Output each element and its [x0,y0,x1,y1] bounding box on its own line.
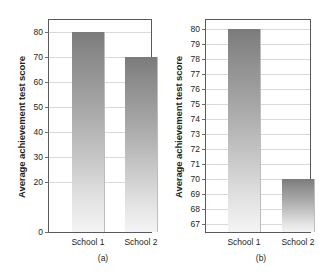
y-axis-tick-label: 73 [191,130,200,139]
x-axis-category-label: School 2 [264,237,319,247]
y-axis-tick [202,149,206,150]
bar-school-1 [228,29,261,232]
y-axis-tick-label: 70 [34,53,43,62]
y-axis-tick [202,29,206,30]
y-axis-tick-label: 20 [34,178,43,187]
y-axis-tick [45,82,49,83]
chart-panel-b: Average achievement test score 676869707… [159,0,319,276]
y-axis-tick-label: 40 [34,128,43,137]
y-axis-title-b: Average achievement test score [173,24,186,230]
y-axis-tick-label: 67 [191,220,200,229]
y-axis-tick [202,119,206,120]
panel-caption-b: (b) [159,253,319,263]
y-axis-tick [202,104,206,105]
bar-school-2 [125,57,158,232]
y-axis-tick-label: 50 [34,103,43,112]
bar-school-2 [282,179,315,232]
y-axis-tick [202,59,206,60]
y-axis-tick-label: 76 [191,85,200,94]
y-axis-tick [45,182,49,183]
y-axis-tick [45,232,49,233]
y-axis-tick-label: 80 [191,25,200,34]
y-axis-tick [45,157,49,158]
y-axis-tick-label: 72 [191,145,200,154]
y-axis-tick-label: 80 [34,28,43,37]
y-axis-tick-label: 74 [191,115,200,124]
y-axis-tick-label: 75 [191,100,200,109]
y-axis-tick-label: 69 [191,190,200,199]
y-axis-tick [202,89,206,90]
y-axis-tick-label: 0 [38,228,43,237]
figure-two-bar-charts: Average achievement test score 020304050… [0,0,319,276]
y-axis-tick [202,44,206,45]
y-axis-tick [45,132,49,133]
plot-area-b: 6768697071727374757677787980 [205,19,311,233]
y-axis-title-a: Average achievement test score [16,24,29,230]
y-axis-tick-label: 68 [191,205,200,214]
bar-school-1 [72,32,105,232]
y-axis-tick [202,164,206,165]
y-axis-tick-label: 30 [34,153,43,162]
y-axis-tick-label: 79 [191,40,200,49]
y-axis-tick-label: 77 [191,70,200,79]
y-axis-tick-label: 60 [34,78,43,87]
y-axis-tick [202,209,206,210]
y-axis-tick-label: 70 [191,175,200,184]
plot-area-a: 020304050607080 [48,19,152,233]
chart-panel-a: Average achievement test score 020304050… [0,0,160,276]
y-axis-tick [45,107,49,108]
y-axis-tick [45,57,49,58]
y-axis-tick [202,179,206,180]
y-axis-tick-label: 78 [191,55,200,64]
y-axis-tick [202,224,206,225]
y-axis-tick [202,74,206,75]
y-axis-tick [202,134,206,135]
y-axis-tick-label: 71 [191,160,200,169]
y-axis-tick [202,194,206,195]
y-axis-tick [45,32,49,33]
panel-caption-a: (a) [0,253,160,263]
